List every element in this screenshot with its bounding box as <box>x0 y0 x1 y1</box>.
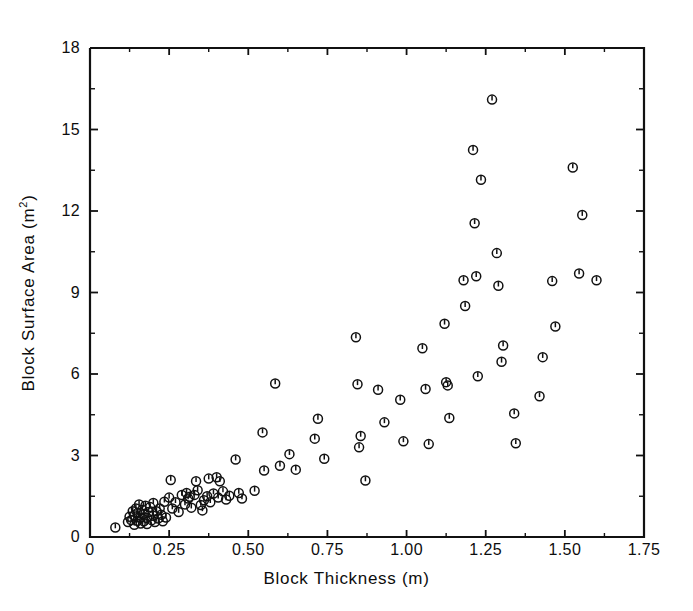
data-point <box>231 455 240 464</box>
data-point <box>271 379 280 388</box>
data-point <box>111 523 120 532</box>
axis-frame <box>90 48 644 537</box>
y-axis-title-exponent: 2 <box>17 200 29 207</box>
data-point <box>494 281 503 290</box>
data-point <box>445 414 454 423</box>
data-point <box>192 477 201 486</box>
data-point <box>578 211 587 220</box>
data-point <box>353 380 362 389</box>
data-point <box>198 506 207 515</box>
x-tick-label: 1.25 <box>469 541 502 559</box>
data-point <box>351 333 360 342</box>
data-point <box>535 392 544 401</box>
x-tick-label: 1.75 <box>628 541 661 559</box>
x-tick-label: 0 <box>85 541 94 559</box>
data-point <box>285 450 294 459</box>
data-point <box>473 372 482 381</box>
data-points <box>111 95 601 532</box>
data-point <box>492 249 501 258</box>
x-tick-label: 0.75 <box>311 541 344 559</box>
y-tick-label: 0 <box>46 528 80 546</box>
data-point <box>459 276 468 285</box>
data-point <box>440 319 449 328</box>
data-point <box>313 414 322 423</box>
data-point <box>166 475 175 484</box>
data-point <box>461 302 470 311</box>
x-tick-label: 0.50 <box>232 541 265 559</box>
data-point <box>237 494 246 503</box>
y-axis-title-main: Block Surface Area (m <box>19 207 38 391</box>
y-axis-title: Block Surface Area (m2) <box>19 194 39 391</box>
x-tick-label: 0.25 <box>153 541 186 559</box>
scatter-plot-figure: 00.250.500.751.001.251.501.75 0369121518… <box>0 0 693 611</box>
data-point <box>374 385 383 394</box>
data-point <box>380 418 389 427</box>
data-point <box>511 439 520 448</box>
y-tick-label: 3 <box>46 447 80 465</box>
data-point <box>497 357 506 366</box>
data-point <box>488 95 497 104</box>
y-tick-label: 15 <box>46 121 80 139</box>
y-axis-title-tail: ) <box>19 194 38 200</box>
data-point <box>355 443 364 452</box>
data-point <box>424 440 433 449</box>
plot-canvas <box>0 0 693 611</box>
x-tick-label: 1.50 <box>548 541 581 559</box>
data-point <box>258 428 267 437</box>
data-point <box>310 434 319 443</box>
y-tick-label: 12 <box>46 202 80 220</box>
data-point <box>421 384 430 393</box>
data-point <box>443 381 452 390</box>
y-axis-title-container: Block Surface Area (m2) <box>12 48 46 537</box>
data-point <box>275 461 284 470</box>
data-point <box>356 431 365 440</box>
data-point <box>250 486 259 495</box>
y-tick-label: 9 <box>46 284 80 302</box>
data-point <box>472 272 481 281</box>
data-point <box>418 344 427 353</box>
data-point <box>592 276 601 285</box>
data-point <box>361 476 370 485</box>
data-point <box>538 353 547 362</box>
data-point <box>575 269 584 278</box>
data-point <box>469 145 478 154</box>
x-tick-label: 1.00 <box>390 541 423 559</box>
data-point <box>568 163 577 172</box>
x-axis-ticks <box>130 48 644 537</box>
data-point <box>548 277 557 286</box>
y-tick-label: 6 <box>46 365 80 383</box>
data-point <box>399 437 408 446</box>
data-point <box>320 454 329 463</box>
data-point <box>291 465 300 474</box>
y-tick-label: 18 <box>46 39 80 57</box>
data-point <box>260 466 269 475</box>
data-point <box>396 395 405 404</box>
data-point <box>470 219 479 228</box>
y-axis-ticks <box>90 48 644 496</box>
data-point <box>499 341 508 350</box>
x-axis-title: Block Thickness (m) <box>0 569 693 589</box>
data-point <box>551 322 560 331</box>
data-point <box>510 409 519 418</box>
data-point <box>476 175 485 184</box>
